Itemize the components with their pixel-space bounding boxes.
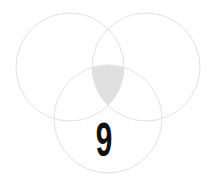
- number-label: 9: [95, 112, 112, 168]
